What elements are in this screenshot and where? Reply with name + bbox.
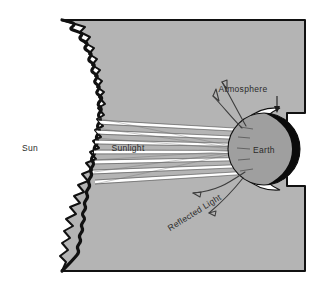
sun-earth-diagram: Sun Sunlight Atmosphere Earth Reflected … [0, 0, 323, 285]
label-earth: Earth [253, 145, 275, 155]
label-sun: Sun [22, 143, 38, 153]
figure-container: Sun Sunlight Atmosphere Earth Reflected … [0, 0, 323, 285]
label-atmosphere: Atmosphere [219, 84, 268, 94]
label-sunlight: Sunlight [111, 143, 144, 153]
